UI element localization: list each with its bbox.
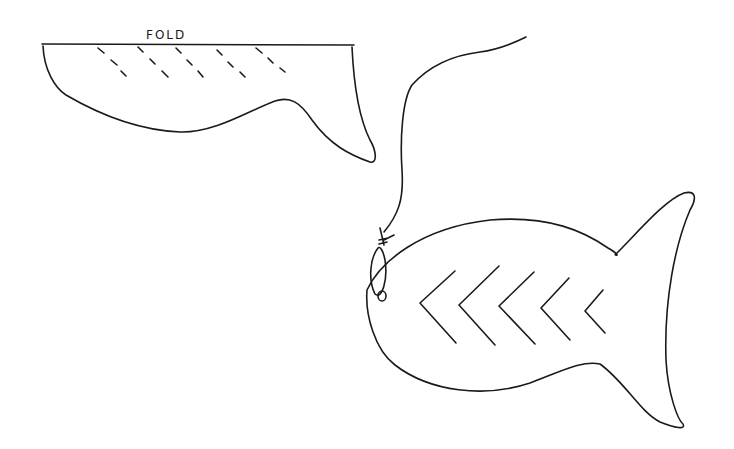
fish bbox=[367, 192, 695, 427]
fish-outline bbox=[367, 192, 695, 427]
hanging-string bbox=[384, 37, 526, 232]
fold-label: FOLD bbox=[146, 28, 186, 42]
sketch bbox=[0, 0, 734, 449]
string-knot bbox=[379, 228, 394, 245]
fold-line bbox=[42, 44, 354, 45]
fold-template bbox=[42, 44, 375, 162]
half-fish-outline bbox=[43, 46, 375, 162]
fold-dash-marks bbox=[98, 47, 285, 77]
fish-chevrons bbox=[420, 266, 605, 345]
